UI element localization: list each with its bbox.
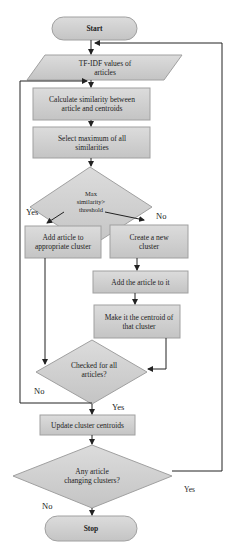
checked-label: Checked for all articles? [66, 358, 122, 382]
checked-yes-label: Yes [112, 402, 124, 412]
tfidf-label: TF-IDF values of articles [70, 56, 140, 80]
changing-yes-label: Yes [184, 485, 195, 494]
changing-label: Any article changing clusters? [62, 463, 122, 489]
select-max-label: Select maximum of all similarities [48, 127, 136, 158]
checked-no-label: No [34, 386, 44, 396]
changing-no-label: No [42, 501, 52, 511]
update-label: Update cluster centroids [40, 415, 135, 435]
stop-label: Stop [45, 516, 137, 541]
add-article-label: Add article to appropriate cluster [28, 226, 98, 258]
threshold-label: Max similarity> threshold [70, 188, 112, 216]
make-centroid-label: Make it the centroid of that cluster [104, 305, 174, 338]
create-cluster-label: Create a new cluster [124, 225, 174, 258]
threshold-yes-label: Yes [26, 207, 38, 217]
threshold-no-label: No [156, 211, 166, 221]
calculate-label: Calculate similarity between article and… [40, 88, 144, 120]
start-label: Start [52, 17, 137, 40]
add-to-it-label: Add the article to it [93, 271, 188, 293]
